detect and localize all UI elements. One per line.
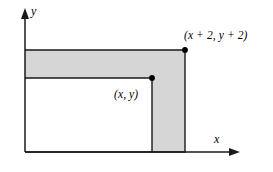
figure-canvas bbox=[0, 0, 273, 172]
inner-corner-point-dot bbox=[149, 75, 155, 81]
outer-corner-point-dot bbox=[182, 47, 188, 53]
y-axis-arrowhead bbox=[21, 8, 29, 19]
y-axis-label: y bbox=[31, 5, 36, 17]
x-axis-arrowhead bbox=[229, 148, 240, 156]
outer-corner-point-label: (x + 2, y + 2) bbox=[184, 30, 248, 42]
shaded-l-region bbox=[25, 50, 185, 152]
inner-corner-point-label: (x, y) bbox=[114, 89, 138, 101]
x-axis-label: x bbox=[214, 133, 219, 145]
math-figure: y x (x + 2, y + 2) (x, y) bbox=[0, 0, 273, 172]
